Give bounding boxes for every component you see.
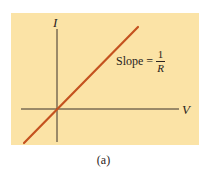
slope-prefix: Slope = — [116, 54, 153, 69]
slope-annotation: Slope = 1 R — [116, 49, 165, 74]
iv-graph — [0, 0, 207, 175]
figure-caption: (a) — [0, 153, 207, 168]
slope-denominator: R — [157, 63, 164, 74]
slope-numerator: 1 — [158, 49, 164, 60]
y-axis-label: I — [53, 16, 57, 29]
x-axis-label: V — [182, 103, 190, 116]
linear-iv-line — [24, 27, 138, 143]
slope-fraction: 1 R — [156, 49, 165, 74]
